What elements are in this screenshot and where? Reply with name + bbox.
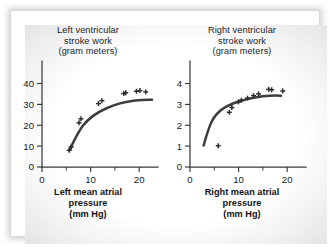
plot-svg-right: 0 1 2 3 4 0 10 20 [165,55,319,175]
x-tick-label-left-20: 20 [134,174,145,185]
y-tick-label-left-0: 0 [29,161,34,172]
charts-container: Left ventricular stroke work (gram meter… [11,11,319,236]
axes-right [190,61,306,167]
y-tick-label-right-2: 2 [177,120,182,131]
x-tick-label-right-20: 20 [282,174,293,185]
chart-title-left: Left ventricular stroke work (gram meter… [11,25,165,57]
data-point-marker [280,89,285,94]
chart-panel-right: Right ventricular stroke work (gram mete… [165,11,319,236]
y-tick-label-right-4: 4 [177,78,183,89]
plot-area-left: 0 10 20 30 40 0 10 [11,55,165,175]
chart-title-right-line1: Right ventricular [165,25,319,36]
x-axis-label-right: Right mean atrial pressure (mm Hg) [165,187,319,219]
data-point-marker [99,98,104,103]
y-ticks-right: 0 1 2 3 4 [177,78,190,172]
plot-area-right: 0 1 2 3 4 0 10 20 [165,55,319,175]
data-point-marker [137,88,142,93]
x-axis-label-left-line3: (mm Hg) [11,209,165,220]
data-point-marker [143,89,148,94]
y-tick-label-right-1: 1 [177,141,182,152]
chart-title-left-line1: Left ventricular [11,25,165,36]
x-tick-label-right-10: 10 [233,174,244,185]
chart-title-right-line2: stroke work [165,36,319,47]
plot-svg-left: 0 10 20 30 40 0 10 [11,55,165,175]
data-point-marker [216,143,221,148]
data-curve-right [204,95,281,145]
data-curve-left [69,100,152,151]
x-ticks-left: 0 10 20 [39,167,144,185]
x-axis-label-left-line2: pressure [11,198,165,209]
x-axis-label-right-line1: Right mean atrial [165,187,319,198]
x-tick-label-right-0: 0 [187,174,192,185]
axes-left [42,61,158,167]
y-tick-label-left-30: 30 [23,99,34,110]
x-ticks-right: 0 10 20 [187,167,292,185]
x-axis-label-right-line3: (mm Hg) [165,209,319,220]
data-point-marker [269,87,274,92]
x-tick-label-left-0: 0 [39,174,44,185]
x-axis-label-right-line2: pressure [165,198,319,209]
chart-title-left-line2: stroke work [11,36,165,47]
chart-title-right: Right ventricular stroke work (gram mete… [165,25,319,57]
figure-root: Left ventricular stroke work (gram meter… [0,0,330,247]
y-ticks-left: 0 10 20 30 40 [23,78,42,172]
x-tick-label-left-10: 10 [85,174,96,185]
chart-panel-left: Left ventricular stroke work (gram meter… [11,11,165,236]
y-tick-label-right-0: 0 [177,161,182,172]
y-tick-label-left-40: 40 [23,78,34,89]
data-point-marker [96,101,101,106]
x-axis-label-left: Left mean atrial pressure (mm Hg) [11,187,165,219]
x-axis-label-left-line1: Left mean atrial [11,187,165,198]
data-point-marker [227,110,232,115]
y-tick-label-left-10: 10 [23,141,34,152]
data-markers-left [67,88,148,153]
y-tick-label-left-20: 20 [23,120,34,131]
y-tick-label-right-3: 3 [177,99,182,110]
